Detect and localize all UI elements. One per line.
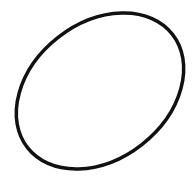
drawing-canvas xyxy=(0,0,196,177)
